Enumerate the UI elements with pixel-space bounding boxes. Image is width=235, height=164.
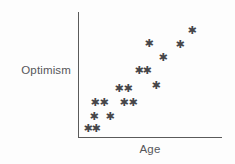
data-point-marker: ✱ [158,52,167,63]
data-point-marker: ✱ [91,123,100,134]
plot-area: ✱✱✱✱✱✱✱✱✱✱✱✱✱✱✱✱✱ [0,0,235,164]
data-point-marker: ✱ [105,111,114,122]
x-axis-label: Age [78,143,222,155]
data-point-marker: ✱ [142,65,151,76]
data-point-marker: ✱ [123,83,132,94]
data-point-marker: ✱ [89,111,98,122]
data-point-marker: ✱ [128,97,137,108]
data-point-marker: ✱ [119,97,128,108]
data-point-marker: ✱ [114,83,123,94]
data-point-marker: ✱ [187,25,196,36]
data-point-marker: ✱ [90,97,99,108]
y-axis-label: Optimism [0,64,71,76]
data-point-marker: ✱ [151,80,160,91]
data-point-marker: ✱ [175,39,184,50]
scatter-plot-figure: ✱✱✱✱✱✱✱✱✱✱✱✱✱✱✱✱✱ Optimism Age [0,0,235,164]
data-point-marker: ✱ [144,38,153,49]
data-point-marker: ✱ [99,97,108,108]
